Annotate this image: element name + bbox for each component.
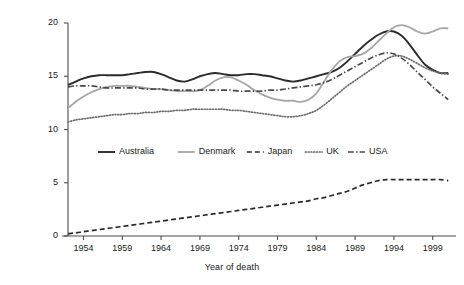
series-line-australia — [68, 31, 448, 85]
x-tick-label: 1959 — [105, 243, 139, 253]
legend-label-usa: USA — [369, 146, 388, 156]
data-series-group — [68, 25, 448, 234]
x-tick-label: 1954 — [67, 243, 101, 253]
series-line-japan — [68, 179, 448, 233]
y-tick-label: 0 — [36, 230, 58, 240]
series-line-denmark — [68, 25, 448, 108]
x-tick-label: 1989 — [338, 243, 372, 253]
legend-label-australia: Australia — [119, 146, 154, 156]
x-axis-title: Year of death — [0, 262, 464, 272]
y-tick-label: 10 — [36, 124, 58, 134]
x-tick-label: 1969 — [183, 243, 217, 253]
x-tick-label: 1999 — [416, 243, 450, 253]
x-tick-label: 1994 — [377, 243, 411, 253]
legend-label-denmark: Denmark — [199, 146, 236, 156]
x-tick-label: 1974 — [222, 243, 256, 253]
y-axis-title: Age-standardised mortality per 100,000 m… — [2, 0, 28, 26]
y-tick-label: 15 — [36, 70, 58, 80]
series-line-uk — [68, 56, 448, 122]
legend-label-japan: Japan — [268, 146, 293, 156]
x-tick-label: 1979 — [261, 243, 295, 253]
legend-label-uk: UK — [326, 146, 339, 156]
y-tick-marks — [64, 23, 68, 236]
mortality-line-chart: Age-standardised mortality per 100,000 m… — [0, 0, 464, 285]
y-tick-label: 5 — [36, 177, 58, 187]
x-tick-label: 1984 — [299, 243, 333, 253]
y-tick-label: 20 — [36, 17, 58, 27]
x-tick-marks — [84, 236, 433, 240]
x-tick-label: 1964 — [144, 243, 178, 253]
